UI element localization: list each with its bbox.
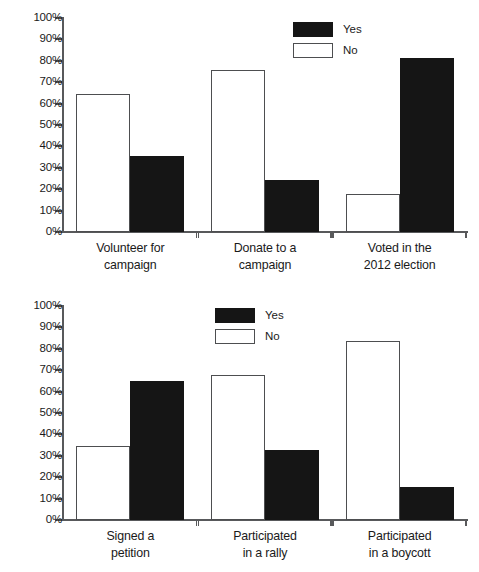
legend-swatch-no-icon	[215, 329, 255, 344]
bar-top-1-yes	[265, 180, 319, 232]
legend-swatch-yes-icon	[215, 308, 255, 323]
bar-top-0-no	[76, 94, 130, 232]
bar-top-1-no	[211, 70, 265, 232]
y-tick-label: 60%	[18, 386, 62, 397]
plot-area-top	[63, 18, 467, 232]
x-axis-label-top-0: Volunteer forcampaign	[63, 240, 198, 274]
x-axis-label-line: Signed a	[63, 528, 198, 545]
bar-bottom-1-yes	[265, 450, 319, 520]
y-tick-label: 0%	[18, 226, 62, 237]
bar-bottom-1-no	[211, 375, 265, 520]
x-axis-label-bottom-1: Participatedin a rally	[198, 528, 333, 562]
y-tick-label: 30%	[18, 450, 62, 461]
y-tick-label: 20%	[18, 183, 62, 194]
y-tick-label: 90%	[18, 33, 62, 44]
legend-label: Yes	[343, 23, 362, 36]
x-axis-group-separator	[465, 519, 467, 526]
bar-bottom-0-no	[76, 446, 130, 520]
legend-label: No	[343, 44, 358, 57]
y-tick-label: 40%	[18, 140, 62, 151]
bar-bottom-2-no	[346, 341, 400, 520]
x-axis-label-top-1: Donate to acampaign	[198, 240, 333, 274]
x-axis-group-separator	[332, 231, 334, 238]
y-tick-label: 70%	[18, 364, 62, 375]
y-tick-label: 0%	[18, 514, 62, 525]
x-axis-label-line: Donate to a	[198, 240, 333, 257]
x-axis-label-line: in a boycott	[332, 545, 467, 562]
y-tick-label: 50%	[18, 119, 62, 130]
x-axis-label-top-2: Voted in the2012 election	[332, 240, 467, 274]
chart-panel-top: 100%90%80%70%60%50%40%30%20%10%0% Volunt…	[0, 0, 479, 282]
y-tick-label: 40%	[18, 428, 62, 439]
legend-label: No	[265, 330, 280, 343]
y-tick-label: 30%	[18, 162, 62, 173]
bar-bottom-0-yes	[130, 381, 184, 520]
y-tick-label: 10%	[18, 493, 62, 504]
y-tick-label: 10%	[18, 205, 62, 216]
x-axis-label-line: Voted in the	[332, 240, 467, 257]
x-axis-label-line: campaign	[198, 257, 333, 274]
x-axis-group-separator	[198, 519, 200, 526]
x-axis-label-line: in a rally	[198, 545, 333, 562]
x-axis-label-line: campaign	[63, 257, 198, 274]
x-axis-label-line: Volunteer for	[63, 240, 198, 257]
y-tick-label: 80%	[18, 343, 62, 354]
bar-top-2-yes	[400, 58, 454, 232]
y-tick-label: 20%	[18, 471, 62, 482]
x-axis-label-line: petition	[63, 545, 198, 562]
legend-label: Yes	[265, 309, 284, 322]
y-tick-label: 50%	[18, 407, 62, 418]
bar-bottom-2-yes	[400, 487, 454, 520]
x-axis-label-bottom-2: Participatedin a boycott	[332, 528, 467, 562]
x-axis-group-separator	[465, 231, 467, 238]
figure-two-bar-charts: 100%90%80%70%60%50%40%30%20%10%0% Volunt…	[0, 0, 479, 572]
x-axis-label-bottom-0: Signed apetition	[63, 528, 198, 562]
x-axis-label-line: Participated	[198, 528, 333, 545]
y-tick-label: 60%	[18, 98, 62, 109]
x-axis-label-line: 2012 election	[332, 257, 467, 274]
y-tick-label: 90%	[18, 321, 62, 332]
bar-top-2-no	[346, 194, 400, 232]
bar-top-0-yes	[130, 156, 184, 232]
x-axis-group-separator	[198, 231, 200, 238]
x-axis-label-line: Participated	[332, 528, 467, 545]
chart-panel-bottom: 100%90%80%70%60%50%40%30%20%10%0% Signed…	[0, 288, 479, 570]
x-axis-group-separator	[332, 519, 334, 526]
legend-swatch-no-icon	[293, 43, 333, 58]
legend-swatch-yes-icon	[293, 22, 333, 37]
y-tick-label: 100%	[18, 300, 62, 311]
y-tick-label: 80%	[18, 55, 62, 66]
y-tick-label: 100%	[18, 12, 62, 23]
y-tick-label: 70%	[18, 76, 62, 87]
